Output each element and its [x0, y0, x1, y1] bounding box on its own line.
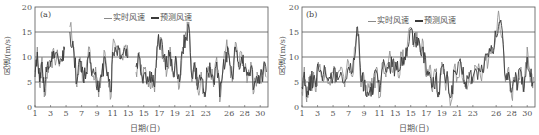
y-tick-label: 10: [22, 53, 32, 62]
x-tick-label: 13: [123, 109, 133, 118]
legend-item-real-b: 实时风速: [368, 14, 409, 25]
y-tick-label: 5: [294, 78, 299, 87]
x-tick-label: 21: [185, 109, 195, 118]
legend-swatch-pred-icon: [151, 17, 159, 19]
y-axis-label-a: 风速/(m/s): [2, 36, 13, 75]
y-tick-label: 15: [289, 28, 299, 37]
x-tick-label: 28: [507, 109, 517, 118]
legend-item-real-a: 实时风速: [104, 11, 145, 22]
x-tick-label: 17: [421, 109, 431, 118]
chart-panel-b: 051015201357911131517192123262830 风速/(m/…: [269, 0, 538, 135]
x-axis-label-b: 日期(日): [399, 122, 429, 133]
x-tick-label: 1: [299, 109, 304, 118]
legend-b: 实时风速 预测风速: [368, 14, 456, 25]
x-tick-label: 5: [331, 109, 336, 118]
x-tick-label: 21: [452, 109, 462, 118]
y-tick-label: 0: [27, 103, 32, 112]
legend-item-pred-b: 预测风速: [415, 14, 456, 25]
y-tick-label: 15: [22, 28, 32, 37]
x-axis-label-a: 日期(日): [130, 122, 160, 133]
x-tick-label: 11: [375, 109, 385, 118]
y-tick-label: 10: [289, 53, 299, 62]
y-tick-label: 20: [22, 3, 32, 12]
x-tick-label: 23: [468, 109, 478, 118]
legend-swatch-pred-icon: [415, 20, 423, 22]
x-tick-label: 3: [48, 109, 53, 118]
y-axis-label-b: 风速/(m/s): [277, 36, 288, 75]
x-tick-label: 15: [139, 109, 149, 118]
y-tick-label: 20: [289, 3, 299, 12]
x-tick-label: 26: [491, 109, 501, 118]
x-tick-label: 26: [224, 109, 234, 118]
y-tick-label: 5: [27, 78, 32, 87]
legend-swatch-real-icon: [368, 21, 376, 22]
legend-item-pred-a: 预测风速: [151, 11, 192, 22]
x-tick-label: 9: [362, 109, 367, 118]
x-tick-label: 15: [406, 109, 416, 118]
x-tick-label: 28: [240, 109, 250, 118]
legend-a: 实时风速 预测风速: [104, 11, 192, 22]
panel-tag-b: (b): [306, 10, 317, 19]
x-tick-label: 7: [346, 109, 351, 118]
x-tick-label: 17: [154, 109, 164, 118]
x-tick-label: 19: [437, 109, 447, 118]
x-tick-label: 1: [32, 109, 37, 118]
x-tick-label: 19: [170, 109, 180, 118]
x-tick-label: 30: [255, 109, 265, 118]
x-tick-label: 3: [315, 109, 320, 118]
x-tick-label: 9: [95, 109, 100, 118]
legend-swatch-real-icon: [104, 18, 112, 19]
x-tick-label: 13: [390, 109, 400, 118]
x-tick-label: 7: [79, 109, 84, 118]
x-tick-label: 11: [108, 109, 118, 118]
x-tick-label: 5: [64, 109, 69, 118]
x-tick-label: 30: [522, 109, 532, 118]
x-tick-label: 23: [201, 109, 211, 118]
panel-tag-a: (a): [40, 10, 51, 19]
y-tick-label: 0: [294, 103, 299, 112]
chart-panel-a: 051015201357911131517192123262830 风速/(m/…: [0, 0, 269, 135]
